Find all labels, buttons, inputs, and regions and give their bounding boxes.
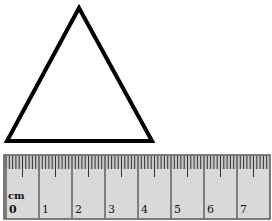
- ruler-label-3: 3: [108, 203, 115, 216]
- ruler-label-1: 1: [42, 203, 49, 216]
- ruler-unit-label: cm: [8, 190, 25, 201]
- ruler-label-6: 6: [207, 203, 214, 216]
- ruler-label-7: 7: [240, 203, 247, 216]
- centimeter-ruler: cm 01234567: [0, 0, 272, 221]
- ruler-label-2: 2: [75, 203, 82, 216]
- ruler-label-0: 0: [9, 203, 17, 216]
- ruler-label-5: 5: [174, 203, 181, 216]
- ruler-label-4: 4: [141, 203, 148, 216]
